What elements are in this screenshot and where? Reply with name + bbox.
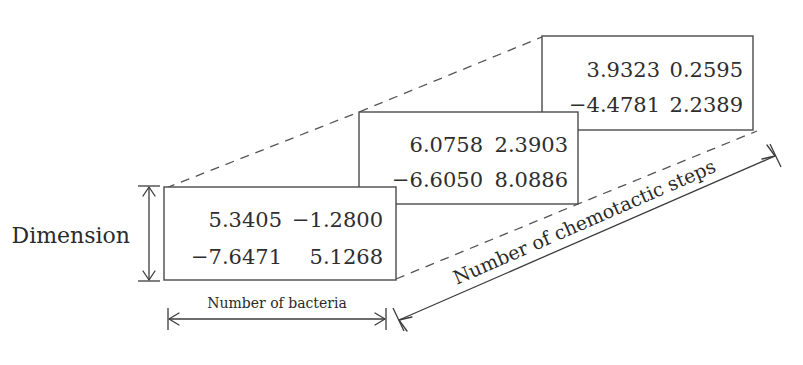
matrix-back-cell-r1c1: 2.2389 xyxy=(670,93,743,117)
matrix-middle-cell-r1c0: −6.6050 xyxy=(392,168,483,192)
chemotactic-arrowhead-far xyxy=(762,145,775,159)
matrix-stack-figure: 3.9323 0.2595 −4.4781 2.2389 6.0758 2.39… xyxy=(0,0,803,365)
bacteria-measure-arrow xyxy=(168,308,386,330)
matrix-front-cell-r1c0: −7.6471 xyxy=(191,245,282,269)
dimension-axis-label: Dimension xyxy=(12,223,130,248)
matrix-middle-cell-r1c1: 8.0886 xyxy=(495,168,568,192)
chemotactic-tick-far xyxy=(770,144,781,167)
matrix-front-cell-r0c1: −1.2800 xyxy=(292,208,383,232)
matrix-front-cell-r0c0: 5.3405 xyxy=(209,208,282,232)
bacteria-axis-label: Number of bacteria xyxy=(207,295,347,311)
matrix-back-cell-r0c1: 0.2595 xyxy=(670,58,743,82)
figure-canvas: 3.9323 0.2595 −4.4781 2.2389 6.0758 2.39… xyxy=(0,0,803,365)
dimension-measure-arrow xyxy=(138,186,160,281)
matrix-middle-cell-r0c1: 2.3903 xyxy=(495,133,568,157)
matrix-middle-cell-r0c0: 6.0758 xyxy=(410,133,483,157)
matrix-back-cell-r1c0: −4.4781 xyxy=(569,93,660,117)
matrix-front-cell-r1c1: 5.1268 xyxy=(310,245,383,269)
matrix-back-cell-r0c0: 3.9323 xyxy=(587,58,660,82)
matrix-box-front: 5.3405 −1.2800 −7.6471 5.1268 xyxy=(164,187,396,280)
